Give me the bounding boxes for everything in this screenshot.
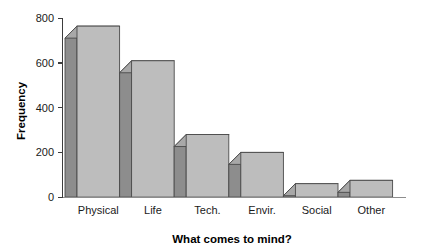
bar-other <box>338 180 393 197</box>
bar-side-face <box>120 61 132 197</box>
y-axis-title: Frequency <box>15 81 27 140</box>
y-axis-ticks <box>58 18 63 197</box>
y-tick-label-200: 200 <box>36 146 54 158</box>
x-axis-title: What comes to mind? <box>172 233 291 245</box>
y-tick-label-400: 400 <box>36 102 54 114</box>
bar-front-face <box>186 135 229 198</box>
bar-front-face <box>295 184 338 197</box>
x-tick-label-3: Envir. <box>248 204 276 216</box>
chart-canvas: 800 600 400 200 0 Frequency PhysicalLife… <box>0 0 421 251</box>
y-tick-label-600: 600 <box>36 57 54 69</box>
x-tick-label-1: Life <box>144 204 162 216</box>
x-axis-tick-labels: PhysicalLifeTech.Envir.SocialOther <box>78 204 386 216</box>
bars-group <box>65 26 393 197</box>
y-tick-label-800: 800 <box>36 12 54 24</box>
y-axis-tick-labels: 800 600 400 200 0 <box>36 12 54 203</box>
bar-front-face <box>132 61 175 197</box>
x-tick-label-0: Physical <box>78 204 119 216</box>
y-tick-label-0: 0 <box>48 191 54 203</box>
bar-physical <box>65 26 120 197</box>
x-tick-label-4: Social <box>302 204 332 216</box>
bar-life <box>120 61 175 197</box>
bar-envir <box>229 152 284 197</box>
bar-chart-figure: 800 600 400 200 0 Frequency PhysicalLife… <box>0 0 421 251</box>
bar-front-face <box>241 152 284 197</box>
x-tick-label-5: Other <box>358 204 386 216</box>
bar-tech <box>174 135 229 198</box>
bar-social <box>283 184 338 197</box>
bar-front-face <box>77 26 120 197</box>
x-tick-label-2: Tech. <box>194 204 220 216</box>
bar-front-face <box>350 180 393 197</box>
bar-side-face <box>65 26 77 197</box>
